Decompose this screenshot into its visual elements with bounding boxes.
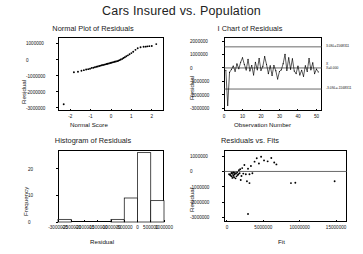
data-point	[299, 74, 300, 75]
ytick-mark-ichart-4	[222, 94, 225, 95]
xtick-label-rvf-1: 5000000	[254, 225, 272, 230]
data-point	[307, 71, 308, 72]
data-point	[80, 70, 82, 72]
data-point	[63, 103, 65, 105]
data-point	[236, 63, 237, 64]
ytick-label-normal-1: 0	[26, 57, 29, 62]
data-point	[85, 69, 87, 71]
data-point	[260, 70, 261, 71]
xtick-label-hist-5: -500000	[116, 225, 133, 230]
data-point	[231, 69, 232, 70]
ytick-mark-ichart-3	[222, 81, 225, 82]
xaxis-label-residuals-vs-fits: Fit	[278, 238, 285, 245]
data-point	[148, 45, 150, 47]
data-point	[240, 62, 241, 63]
data-point	[251, 65, 252, 66]
data-point	[245, 173, 247, 175]
xtick-label-rvf-3: 15000000	[326, 225, 346, 230]
ytick-mark-normal-1	[56, 59, 59, 60]
ytick-label-normal-3: -2000000	[26, 89, 45, 94]
data-point	[125, 55, 127, 57]
data-point	[258, 163, 260, 165]
ytick-mark-normal-4	[56, 107, 59, 108]
histogram-bar	[138, 153, 151, 222]
ytick-label-rvf-4: -3000000	[190, 215, 209, 220]
xtick-label-hist-8: 1000000	[155, 225, 173, 230]
data-point	[267, 160, 269, 162]
xaxis-label-i-chart: Observation Number	[234, 121, 291, 128]
ytick-label-ichart-2: 0	[190, 65, 193, 70]
data-point	[77, 71, 79, 73]
xaxis-label-histogram: Residual	[90, 238, 114, 245]
xtick-label-hist-6: 0	[136, 225, 139, 230]
data-point	[238, 68, 239, 69]
xtick-mark-hist-5	[124, 220, 125, 223]
panel-i-chart: I Chart of Residuals Residual Observatio…	[186, 24, 363, 132]
data-point	[288, 57, 289, 58]
data-point	[127, 54, 129, 56]
data-point	[89, 68, 91, 70]
data-point	[140, 46, 142, 48]
data-point	[260, 156, 262, 158]
xtick-mark-normal-0	[70, 109, 71, 112]
data-point	[266, 64, 267, 65]
ytick-label-ichart-5: -3000000	[190, 106, 209, 111]
data-point	[225, 70, 226, 71]
xtick-label-normal-2: 0	[110, 114, 113, 119]
ytick-label-hist-0: 0	[28, 220, 31, 225]
xtick-mark-ichart-3	[279, 109, 280, 112]
data-point	[239, 172, 241, 174]
data-point	[73, 71, 75, 73]
data-point	[250, 165, 252, 167]
data-point	[272, 75, 273, 76]
xtick-mark-normal-3	[131, 109, 132, 112]
xtick-mark-rvf-0	[226, 220, 227, 223]
plot-svg-i-chart	[186, 24, 363, 132]
data-point	[290, 182, 292, 184]
center-line-annotation: X=0.000	[326, 67, 338, 71]
ucl-annotation: 3.0SL=1568311	[326, 45, 349, 49]
data-point	[83, 69, 85, 71]
data-point	[257, 69, 258, 70]
ytick-mark-rvf-0	[222, 156, 225, 157]
data-point	[145, 46, 147, 48]
data-point	[251, 172, 253, 174]
xtick-label-ichart-2: 20	[258, 114, 263, 119]
data-point	[246, 69, 247, 70]
plot-svg-histogram	[8, 136, 178, 250]
figure-root: Cars Insured vs. Population Normal Plot …	[0, 0, 363, 254]
data-point	[129, 53, 131, 55]
data-point	[294, 182, 296, 184]
ytick-label-hist-1: 10	[28, 193, 33, 198]
data-point	[244, 64, 245, 65]
data-point	[303, 76, 304, 77]
ytick-mark-normal-0	[56, 43, 59, 44]
data-point	[249, 182, 251, 184]
panel-normal-plot: Normal Plot of Residuals Residual Normal…	[8, 24, 178, 132]
data-point	[277, 78, 278, 79]
xtick-mark-rvf-2	[299, 220, 300, 223]
data-point	[151, 45, 153, 47]
data-point	[255, 62, 256, 63]
data-point	[92, 67, 94, 69]
data-point	[292, 58, 293, 59]
ytick-mark-rvf-4	[222, 217, 225, 218]
ytick-label-ichart-4: -2000000	[190, 92, 209, 97]
xtick-mark-hist-8	[164, 220, 165, 223]
ytick-mark-ichart-2	[222, 67, 225, 68]
ytick-mark-rvf-2	[222, 186, 225, 187]
ytick-label-normal-2: -1000000	[26, 73, 45, 78]
data-point	[309, 58, 310, 59]
data-point	[242, 173, 244, 175]
histogram-bar	[124, 198, 137, 222]
data-point	[236, 171, 238, 173]
ytick-label-normal-0: 1000000	[26, 41, 44, 46]
data-point	[91, 67, 93, 69]
data-point	[243, 164, 245, 166]
data-point	[314, 73, 315, 74]
data-point	[253, 74, 254, 75]
ytick-label-ichart-1: 1000000	[190, 52, 208, 57]
histogram-bar	[58, 219, 71, 222]
ytick-mark-hist-2	[56, 168, 59, 169]
data-point	[294, 70, 295, 71]
